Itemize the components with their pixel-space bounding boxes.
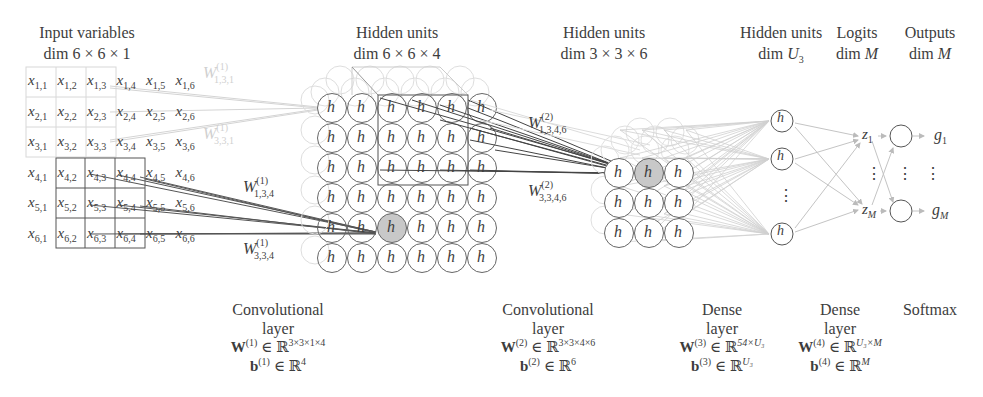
logits-ellipsis: ⋮ <box>866 164 882 183</box>
input-cell: x3,4 <box>117 133 136 150</box>
header-hidden3-dim: dim U3 <box>740 43 822 64</box>
hidden1-unit-label: h <box>477 128 485 146</box>
input-cell: x3,1 <box>28 133 47 150</box>
footer-dense3: Dense layer W(3) ∈ ℝ54×U₃ b(3) ∈ ℝU₃ <box>679 300 764 376</box>
input-cell: x1,4 <box>117 72 136 89</box>
header-input-title: Input variables <box>39 22 135 43</box>
footer-dense4-subtitle: layer <box>798 319 882 338</box>
input-cell: x6,3 <box>87 225 106 242</box>
header-logits-title: Logits <box>836 22 878 43</box>
output-gM: gM <box>932 201 948 219</box>
weight-label-w2-1346: W(2)1,3,4,6 <box>528 114 567 132</box>
hidden1-unit-label: h <box>417 128 425 146</box>
input-cell: x3,6 <box>176 133 195 150</box>
input-cell: x2,3 <box>87 103 106 120</box>
hidden2-unit-label: h <box>674 223 682 241</box>
logit-z1: z1 <box>862 126 873 143</box>
footer-dense4-title: Dense <box>798 300 882 319</box>
hidden1-unit-label: h <box>417 218 425 236</box>
input-cell: x4,3 <box>87 164 106 181</box>
hidden1-unit-label: h <box>387 98 395 116</box>
header-logits-dim: dim M <box>836 43 878 64</box>
footer-dense4: Dense layer W(4) ∈ ℝU₃×M b(4) ∈ ℝM <box>798 300 882 376</box>
hidden1-unit-label: h <box>327 128 335 146</box>
hidden3-unit-1-label: h <box>777 110 784 126</box>
header-outputs: Outputs dim M <box>905 22 956 64</box>
weight-label-w1-334: W(1)3,3,4 <box>243 240 274 258</box>
hidden1-unit-label: h <box>387 248 395 266</box>
hidden1-unit-label: h <box>477 98 485 116</box>
header-input-dim: dim 6 × 6 × 1 <box>39 43 135 64</box>
hidden1-unit-label: h <box>447 98 455 116</box>
hidden2-highlighted-unit-label: h <box>644 163 652 181</box>
input-cell: x4,1 <box>28 164 47 181</box>
input-cell: x6,5 <box>146 225 165 242</box>
footer-conv2-bias: b(2) ∈ ℝ6 <box>501 357 596 376</box>
input-cell: x1,1 <box>28 72 47 89</box>
input-cell: x2,1 <box>28 103 47 120</box>
header-logits: Logits dim M <box>836 22 878 64</box>
hidden1-unit-label: h <box>387 128 395 146</box>
hidden2-unit-label: h <box>644 193 652 211</box>
hidden1-unit-label: h <box>417 188 425 206</box>
hidden2-unit-label: h <box>674 193 682 211</box>
footer-conv2: Convolutional layer W(2) ∈ ℝ3×3×4×6 b(2)… <box>501 300 596 376</box>
hidden2-unit-label: h <box>614 223 622 241</box>
hidden1-unit-label: h <box>447 158 455 176</box>
hidden3-unit-3-label: h <box>777 223 784 239</box>
footer-conv1-title: Convolutional <box>231 300 326 319</box>
input-cell: x6,4 <box>117 225 136 242</box>
header-outputs-title: Outputs <box>905 22 956 43</box>
footer-dense4-weights: W(4) ∈ ℝU₃×M <box>798 338 882 357</box>
hidden1-unit-label: h <box>357 188 365 206</box>
header-hidden1-dim: dim 6 × 6 × 4 <box>354 43 441 64</box>
input-cell: x5,1 <box>28 194 47 211</box>
footer-dense3-weights: W(3) ∈ ℝ54×U₃ <box>679 338 764 357</box>
hidden2-unit-label: h <box>644 223 652 241</box>
header-hidden2-dim: dim 3 × 3 × 6 <box>561 43 648 64</box>
header-hidden2-title: Hidden units <box>561 22 648 43</box>
hidden1-unit-label: h <box>357 98 365 116</box>
hidden1-unit-label: h <box>357 158 365 176</box>
hidden3-ellipsis: ⋮ <box>778 186 794 205</box>
header-hidden1-title: Hidden units <box>354 22 441 43</box>
hidden1-unit-label: h <box>327 98 335 116</box>
hidden2-unit-label: h <box>614 163 622 181</box>
input-cell: x5,4 <box>117 194 136 211</box>
input-cell: x4,6 <box>176 164 195 181</box>
input-cell: x2,2 <box>58 103 77 120</box>
hidden1-unit-label: h <box>447 128 455 146</box>
footer-dense4-bias: b(4) ∈ ℝM <box>798 357 882 376</box>
header-hidden3: Hidden units dim U3 <box>740 22 822 64</box>
hidden3-unit-2-label: h <box>777 148 784 164</box>
footer-conv2-title: Convolutional <box>501 300 596 319</box>
input-grid-lines <box>26 67 145 248</box>
footer-softmax: Softmax <box>903 300 957 319</box>
hidden1-unit-label: h <box>447 218 455 236</box>
footer-softmax-title: Softmax <box>903 300 957 319</box>
input-cell: x3,3 <box>87 133 106 150</box>
footer-conv1-weights: W(1) ∈ ℝ3×3×1×4 <box>231 338 326 357</box>
hidden1-unit-label: h <box>417 248 425 266</box>
hidden1-unit-label: h <box>387 158 395 176</box>
output-g1: g1 <box>934 126 947 144</box>
footer-conv1-bias: b(1) ∈ ℝ4 <box>231 357 326 376</box>
input-cell: x5,6 <box>176 194 195 211</box>
input-cell: x6,2 <box>58 225 77 242</box>
header-hidden1: Hidden units dim 6 × 6 × 4 <box>354 22 441 64</box>
hidden1-unit-label: h <box>357 218 365 236</box>
input-cell: x6,6 <box>176 225 195 242</box>
footer-dense3-title: Dense <box>679 300 764 319</box>
hidden1-unit-label: h <box>417 158 425 176</box>
input-cell: x2,4 <box>117 103 136 120</box>
hidden1-unit-label: h <box>327 158 335 176</box>
input-cell: x3,2 <box>58 133 77 150</box>
hidden1-unit-label: h <box>357 248 365 266</box>
softmax-ellipsis: ⋮ <box>897 164 913 183</box>
hidden2-unit-label: h <box>614 193 622 211</box>
input-cell: x4,2 <box>58 164 77 181</box>
weight-label-w1-134: W(1)1,3,4 <box>243 178 274 196</box>
input-cell: x5,3 <box>87 194 106 211</box>
footer-conv2-weights: W(2) ∈ ℝ3×3×4×6 <box>501 338 596 357</box>
input-cell: x2,6 <box>176 103 195 120</box>
